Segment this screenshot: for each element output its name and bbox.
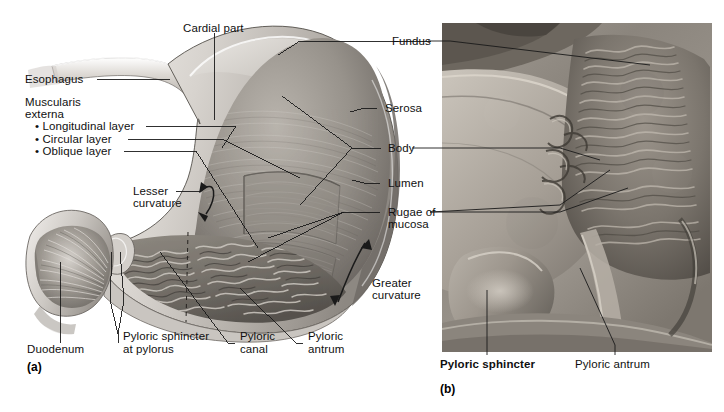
label-rugae-of-mucosa-line2: mucosa xyxy=(388,218,429,231)
label-circular-layer: • Circular layer xyxy=(35,133,112,146)
stomach-anatomy-figure: Cardial part Esophagus Muscularis extern… xyxy=(0,0,724,412)
stomach-photograph xyxy=(442,23,712,352)
label-greater-curvature-line2: curvature xyxy=(372,289,421,302)
label-duodenum: Duodenum xyxy=(27,343,84,356)
label-cardial-part: Cardial part xyxy=(183,22,244,35)
label-muscularis-externa-line2: externa xyxy=(25,108,64,121)
label-pyloric-sphincter-line1: Pyloric sphincter xyxy=(123,330,209,343)
label-pyloric-sphincter-line2: at pylorus xyxy=(123,343,174,356)
label-lesser-curvature-line2: curvature xyxy=(133,197,182,210)
label-oblique-layer: • Oblique layer xyxy=(35,145,111,158)
panel-letter-b: (b) xyxy=(440,382,455,396)
label-greater-curvature-line1: Greater xyxy=(372,277,412,290)
label-pyloric-canal-line2: canal xyxy=(240,343,268,356)
label-lumen: Lumen xyxy=(388,177,424,190)
label-body: Body xyxy=(388,142,415,155)
label-fundus: Fundus xyxy=(392,35,431,48)
label-lesser-curvature-line1: Lesser xyxy=(133,185,168,198)
label-esophagus: Esophagus xyxy=(25,73,83,86)
panel-letter-a: (a) xyxy=(27,360,42,374)
label-rugae-of-mucosa-line1: Rugae of xyxy=(388,206,435,219)
label-photo-pyloric-sphincter: Pyloric sphincter xyxy=(440,358,535,371)
label-serosa: Serosa xyxy=(385,102,422,115)
label-longitudinal-layer: • Longitudinal layer xyxy=(35,120,134,133)
label-pyloric-canal-line1: Pyloric xyxy=(240,330,275,343)
label-photo-pyloric-antrum: Pyloric antrum xyxy=(575,358,650,371)
label-pyloric-antrum-line2: antrum xyxy=(308,343,344,356)
label-pyloric-antrum-line1: Pyloric xyxy=(308,330,343,343)
label-muscularis-externa-line1: Muscularis xyxy=(25,96,81,109)
